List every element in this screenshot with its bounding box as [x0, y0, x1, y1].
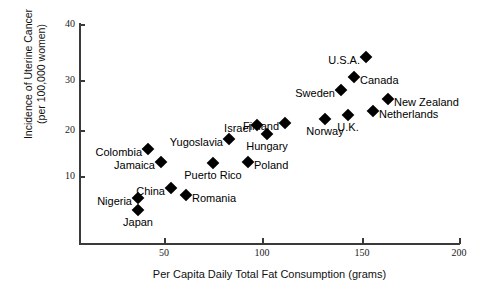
data-point-label: Sweden [295, 87, 335, 99]
y-tick-30 [79, 80, 85, 82]
data-point-marker [155, 156, 168, 169]
data-point-label: New Zealand [394, 96, 459, 108]
data-point-marker [360, 51, 373, 64]
data-point-label: Canada [360, 74, 399, 86]
data-point-label: Romania [192, 192, 236, 204]
x-tick-label-50: 50 [149, 247, 179, 258]
data-point-marker [382, 93, 395, 106]
x-tick-200 [459, 238, 461, 244]
data-point-marker [367, 105, 380, 118]
data-point-marker [342, 109, 355, 122]
data-point-label: Jamaica [114, 159, 155, 171]
data-point-marker [348, 71, 361, 84]
y-tick-20 [79, 130, 85, 132]
x-axis-line [79, 243, 460, 245]
data-point-marker [319, 113, 332, 126]
data-point-label: Yugoslavia [170, 136, 223, 148]
y-tick-label-40: 40 [51, 18, 75, 29]
y-axis-title: Incidence of Uterine Cancer (per 100,000… [22, 0, 48, 174]
x-tick-150 [362, 238, 364, 244]
data-point-marker [242, 156, 255, 169]
y-tick-10 [79, 176, 85, 178]
y-tick-label-20: 20 [51, 124, 75, 135]
data-point-label: Finland [243, 120, 279, 132]
x-tick-50 [164, 238, 166, 244]
data-point-label: China [136, 185, 165, 197]
x-tick-label-100: 100 [247, 247, 277, 258]
data-point-marker [279, 117, 292, 130]
x-tick-label-200: 200 [444, 247, 474, 258]
data-point-label: Japan [123, 216, 153, 228]
data-point-marker [132, 204, 145, 217]
y-axis-line [79, 23, 81, 244]
data-point-label: Netherlands [379, 108, 438, 120]
x-tick-100 [262, 238, 264, 244]
data-point-label: U.S.A. [328, 54, 360, 66]
data-point-marker [142, 143, 155, 156]
data-point-label: Hungary [246, 140, 288, 152]
x-axis-title: Per Capita Daily Total Fat Consumption (… [79, 268, 460, 280]
data-point-marker [180, 189, 193, 202]
y-axis-title-line1: Incidence of Uterine Cancer [22, 9, 34, 139]
data-point-marker [207, 157, 220, 170]
y-tick-label-10: 10 [51, 170, 75, 181]
data-point-label: U.K. [337, 121, 358, 133]
y-tick-40 [79, 24, 85, 26]
data-point-label: Colombia [96, 146, 142, 158]
scatter-plot-figure: Incidence of Uterine Cancer (per 100,000… [0, 0, 494, 293]
data-point-marker [223, 133, 236, 146]
data-point-label: Poland [254, 159, 288, 171]
data-point-label: Nigeria [97, 195, 132, 207]
y-axis-title-line2: (per 100,000 women) [35, 0, 48, 174]
data-point-label: Puerto Rico [184, 169, 241, 181]
x-tick-label-150: 150 [347, 247, 377, 258]
data-point-marker [165, 182, 178, 195]
y-tick-label-30: 30 [51, 74, 75, 85]
data-point-marker [335, 84, 348, 97]
